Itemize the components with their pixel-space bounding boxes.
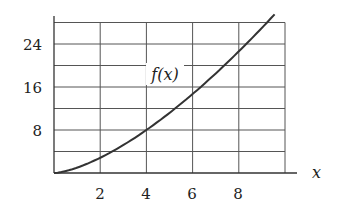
grid <box>54 23 285 174</box>
curve-label: f(x) <box>150 65 178 84</box>
x-tick-6: 6 <box>187 185 197 203</box>
f-curve <box>54 14 275 173</box>
y-tick-8: 8 <box>32 122 42 140</box>
x-tick-8: 8 <box>233 185 243 203</box>
chart: f(x) 8 16 24 2 4 6 8 x <box>0 0 338 208</box>
x-tick-4: 4 <box>141 185 151 203</box>
axes <box>54 16 297 173</box>
x-tick-2: 2 <box>95 185 105 203</box>
y-tick-24: 24 <box>23 36 42 54</box>
y-tick-16: 16 <box>23 79 42 97</box>
x-axis-label: x <box>312 163 321 182</box>
